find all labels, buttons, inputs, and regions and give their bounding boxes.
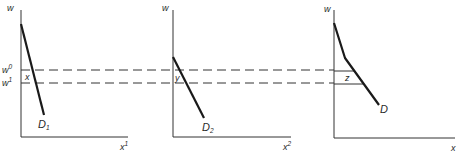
y-axis-label-3: w xyxy=(324,4,331,14)
w1-label: w1 xyxy=(2,76,13,88)
interval-label-z: z xyxy=(344,73,350,83)
x-axis-label-2: x2 xyxy=(282,140,292,152)
w0-label: w0 xyxy=(2,63,13,75)
panel-3: w x D z xyxy=(324,4,456,153)
panel-2: w x2 D2 y xyxy=(162,3,292,152)
demand-curve-d2 xyxy=(173,57,204,118)
y-axis-label-1: w xyxy=(7,3,14,13)
x-axis-label-1: x1 xyxy=(119,140,129,152)
curve-label-d: D xyxy=(380,103,388,115)
x-axis-label-3: x xyxy=(450,143,456,153)
interval-label-x: x xyxy=(24,72,30,82)
y-axis-label-2: w xyxy=(162,3,169,13)
panel-1: w x1 D1 x xyxy=(7,3,129,152)
aggregate-demand-curve xyxy=(334,23,379,105)
curve-label-d1: D1 xyxy=(38,118,50,131)
interval-label-y: y xyxy=(174,73,180,83)
demand-aggregation-diagram: w0 w1 w x1 D1 x w x2 D2 y w x xyxy=(0,0,463,158)
curve-label-d2: D2 xyxy=(202,121,214,134)
